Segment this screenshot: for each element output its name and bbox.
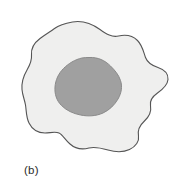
figure-panel: (b) [0,0,183,182]
cell-diagram-svg [0,0,183,182]
figure-caption: (b) [24,163,39,177]
